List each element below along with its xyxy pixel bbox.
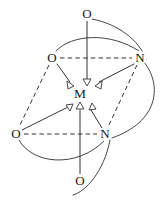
- arrowhead-from-n-upper-right: [95, 81, 102, 89]
- diagram-canvas: O O N M O N O: [0, 0, 166, 209]
- arrowhead-from-o-bottom: [76, 102, 84, 109]
- dative-bond-n-upper-right-to-m-shaft: [99, 64, 134, 82]
- arrowhead-from-n-lower-right: [89, 103, 96, 110]
- arrowhead-from-o-top: [83, 79, 91, 86]
- octahedron-edge-o-upper-left-to-o-lower-left: [19, 65, 49, 127]
- dative-bond-o-upper-left-to-m-shaft: [57, 64, 70, 82]
- atom-label-o-lower-left: O: [11, 126, 20, 141]
- coordination-complex-figure: O O N M O N O: [0, 0, 166, 209]
- atom-label-o-upper-left: O: [47, 50, 56, 65]
- arrowhead-from-o-upper-left: [67, 81, 74, 89]
- atom-label-n-lower-right: N: [100, 126, 110, 141]
- chelate-arc-o-lower-left-to-n-lower-right: [19, 140, 104, 160]
- atom-label-m-center: M: [74, 86, 86, 101]
- chelate-arc-o-upper-left-to-n-upper-right: [56, 37, 139, 51]
- atom-label-o-bottom: O: [75, 173, 84, 188]
- octahedron-edge-n-upper-right-to-n-lower-right: [108, 65, 137, 127]
- dative-bond-o-lower-left-to-m-shaft: [22, 107, 68, 130]
- atom-label-n-upper-right: N: [135, 50, 145, 65]
- atom-label-o-top: O: [82, 6, 91, 21]
